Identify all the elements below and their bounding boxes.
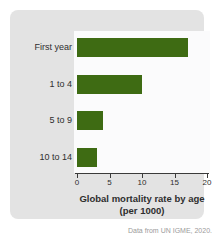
x-axis-tick-label: 10 bbox=[132, 179, 152, 187]
category-label: 10 to 14 bbox=[22, 153, 72, 162]
chart-card: First year1 to 45 to 910 to 14 05101520 … bbox=[10, 10, 204, 219]
x-axis-tick-label: 15 bbox=[165, 179, 185, 187]
bar-10-to-14 bbox=[77, 148, 97, 167]
category-label: First year bbox=[22, 43, 72, 52]
x-axis-tick-label: 5 bbox=[100, 179, 120, 187]
x-axis-tick-label: 20 bbox=[197, 179, 217, 187]
data-source-caption: Data from UN IGME, 2020. bbox=[128, 227, 212, 235]
bar-5-to-9 bbox=[77, 111, 103, 130]
bar-first-year bbox=[77, 38, 188, 57]
category-label: 1 to 4 bbox=[22, 80, 72, 89]
category-label: 5 to 9 bbox=[22, 116, 72, 125]
x-axis-title-line1: Global mortality rate by age bbox=[79, 193, 204, 204]
bar-1-to-4 bbox=[77, 75, 142, 94]
x-axis-title: Global mortality rate by age (per 1000) bbox=[72, 193, 212, 217]
x-axis-title-line2: (per 1000) bbox=[120, 205, 165, 216]
x-axis-tick-label: 0 bbox=[67, 179, 87, 187]
figure: First year1 to 45 to 910 to 14 05101520 … bbox=[0, 0, 221, 240]
